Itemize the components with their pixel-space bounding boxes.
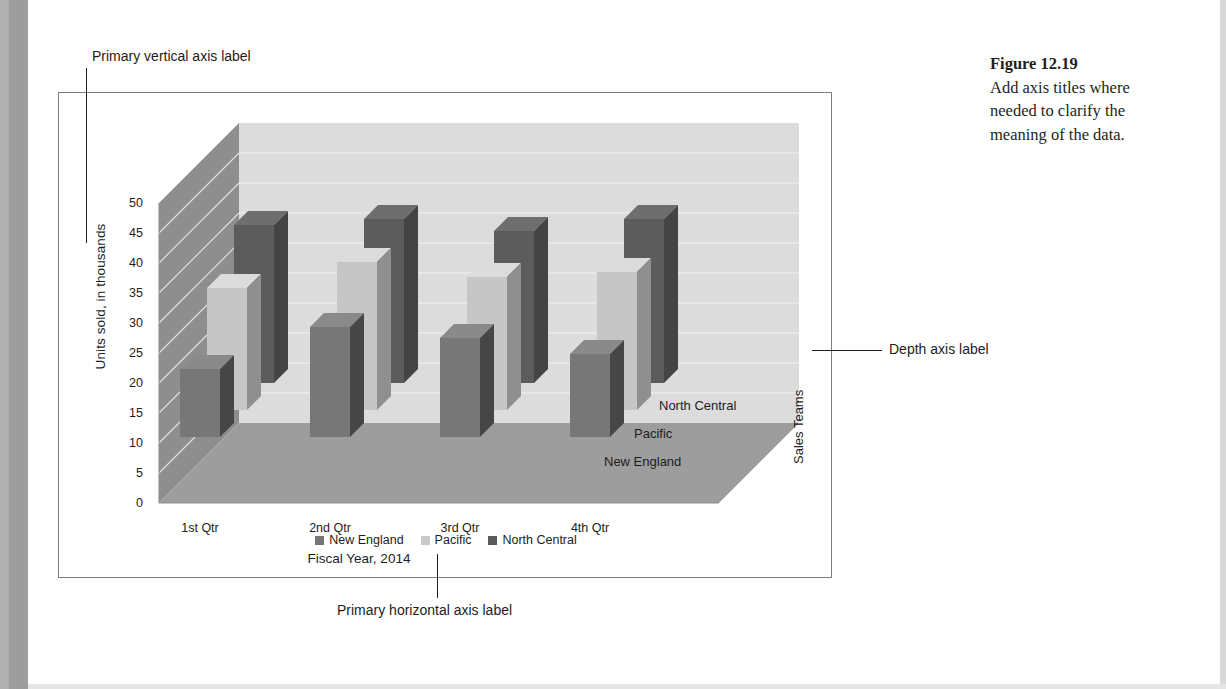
figure-caption: Figure 12.19 Add axis titles where neede…: [990, 52, 1175, 146]
figure-caption-number: Figure 12.19: [990, 52, 1175, 76]
chart-legend[interactable]: New England Pacific North Central: [59, 533, 833, 547]
leader-line-depth-axis: [812, 350, 882, 351]
x-axis-title: Fiscal Year, 2014: [229, 551, 489, 566]
figure-caption-text: Add axis titles where needed to clarify …: [990, 76, 1175, 147]
legend-swatch-icon-north-central: [488, 536, 497, 545]
legend-label-north-central: North Central: [502, 533, 576, 547]
scan-gutter-shadow: [9, 0, 28, 689]
y-tick-0: 0: [113, 497, 143, 509]
legend-label-new-england: New England: [329, 533, 403, 547]
y-tick-40: 40: [113, 257, 143, 269]
y-tick-15: 15: [113, 407, 143, 419]
page-bottom-edge: [28, 684, 1226, 689]
scan-edge-left: [0, 0, 9, 689]
depth-axis-title: Sales Teams: [791, 390, 806, 464]
leader-line-vertical-axis: [86, 68, 87, 243]
y-tick-45: 45: [113, 227, 143, 239]
depth-label-new-england: New England: [604, 454, 681, 469]
screenshot-root: 50 45 40 35 30 25 20 15 10 5 0 Units sol…: [0, 0, 1226, 689]
y-tick-10: 10: [113, 437, 143, 449]
chart-frame[interactable]: 50 45 40 35 30 25 20 15 10 5 0 Units sol…: [58, 92, 832, 578]
y-tick-20: 20: [113, 377, 143, 389]
legend-item-north-central[interactable]: North Central: [488, 533, 576, 547]
annotation-primary-vertical-axis-label: Primary vertical axis label: [92, 48, 251, 64]
depth-label-north-central: North Central: [659, 398, 736, 413]
y-tick-50: 50: [113, 197, 143, 209]
leader-line-horizontal-axis: [437, 554, 438, 598]
y-tick-35: 35: [113, 287, 143, 299]
legend-swatch-icon-new-england: [315, 536, 324, 545]
y-tick-5: 5: [113, 467, 143, 479]
legend-swatch-icon-pacific: [421, 536, 430, 545]
page-right-edge: [1220, 0, 1226, 689]
legend-item-pacific[interactable]: Pacific: [421, 533, 472, 547]
y-axis-title: Units sold, in thousands: [93, 207, 108, 387]
chart-plot-area: [59, 93, 833, 579]
y-tick-25: 25: [113, 347, 143, 359]
y-tick-30: 30: [113, 317, 143, 329]
annotation-depth-axis-label: Depth axis label: [889, 341, 989, 357]
annotation-primary-horizontal-axis-label: Primary horizontal axis label: [337, 602, 512, 618]
legend-label-pacific: Pacific: [435, 533, 472, 547]
depth-label-pacific: Pacific: [634, 426, 672, 441]
chart-3d-svg: [59, 93, 833, 579]
legend-item-new-england[interactable]: New England: [315, 533, 403, 547]
